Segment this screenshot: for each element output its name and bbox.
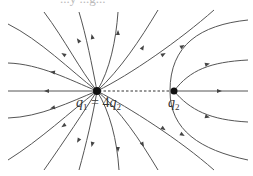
q1-symbol: q (76, 95, 83, 110)
label-q1: q1 = 4q2 (76, 96, 121, 112)
q2-field-lines (170, 20, 248, 160)
q2-subscript: 2 (175, 102, 180, 112)
charge-q2 (171, 88, 178, 95)
q1-field-lines (8, 10, 214, 170)
field-line-diagram (0, 0, 253, 176)
q2-symbol: q (168, 95, 175, 110)
q1-subscript: 1 (83, 102, 88, 112)
label-q2: q2 (168, 96, 180, 112)
charge-q1 (93, 87, 101, 95)
q1-relation: = 4 (91, 95, 109, 110)
q1-relation-subscript: 2 (116, 102, 121, 112)
